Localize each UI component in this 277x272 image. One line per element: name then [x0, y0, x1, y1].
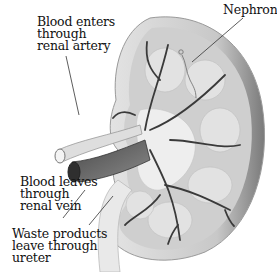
label-renal-vein: Blood leaves through renal vein: [20, 176, 98, 212]
label-nephron: Nephron: [223, 4, 277, 16]
kidney-diagram: Blood enters through renal artery Nephro…: [0, 0, 277, 272]
label-ureter: Waste products leave through ureter: [12, 228, 107, 264]
label-renal-artery: Blood enters through renal artery: [37, 16, 115, 52]
